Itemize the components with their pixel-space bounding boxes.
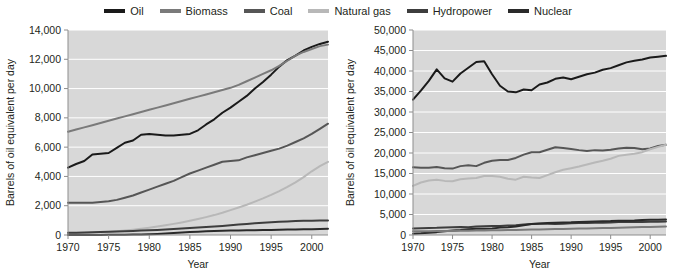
y-tick-label: 12,000	[29, 53, 61, 65]
x-tick-label: 1985	[520, 241, 544, 253]
chart-panel-right: 05,00010,00015,00020,00025,00030,00035,0…	[340, 22, 676, 280]
legend-item-oil[interactable]: Oil	[104, 6, 143, 17]
legend-item-label: Coal	[270, 6, 293, 17]
y-tick-label: 15,000	[374, 167, 406, 179]
legend-item-label: Natural gas	[334, 6, 390, 17]
y-tick-label: 8,000	[35, 111, 61, 123]
x-tick-label: 2000	[639, 241, 663, 253]
x-tick-label: 1975	[441, 241, 465, 253]
y-tick-label: 0	[55, 229, 61, 241]
y-tick-label: 5,000	[380, 208, 406, 220]
y-tick-label: 30,000	[374, 106, 406, 118]
x-tick-label: 1975	[97, 241, 121, 253]
y-tick-label: 35,000	[374, 85, 406, 97]
y-tick-label: 20,000	[374, 147, 406, 159]
x-tick-label: 1970	[401, 241, 425, 253]
x-tick-label: 1970	[56, 241, 80, 253]
y-tick-label: 40,000	[374, 65, 406, 77]
y-tick-label: 0	[400, 229, 406, 241]
legend-item-label: Oil	[130, 6, 143, 17]
figure-root: OilBiomassCoalNatural gasHydropowerNucle…	[0, 0, 676, 280]
x-tick-label: 1995	[599, 241, 623, 253]
line-swatch-icon	[160, 9, 181, 13]
legend-item-coal[interactable]: Coal	[244, 6, 293, 17]
line-swatch-icon	[104, 9, 125, 13]
y-tick-label: 25,000	[374, 126, 406, 138]
x-tick-label: 2000	[300, 241, 324, 253]
x-tick-label: 1985	[178, 241, 202, 253]
legend-item-natural-gas[interactable]: Natural gas	[308, 6, 390, 17]
legend-item-hydropower[interactable]: Hydropower	[407, 6, 492, 17]
y-tick-label: 2,000	[35, 199, 61, 211]
y-tick-label: 10,000	[374, 188, 406, 200]
y-tick-label: 4,000	[35, 170, 61, 182]
x-tick-label: 1980	[138, 241, 162, 253]
chart-panel-left: 02,0004,0006,0008,00010,00012,00014,0001…	[0, 22, 340, 280]
x-axis-title: Year	[529, 258, 551, 270]
chart-legend: OilBiomassCoalNatural gasHydropowerNucle…	[0, 0, 676, 22]
x-tick-label: 1990	[219, 241, 243, 253]
y-tick-label: 10,000	[29, 82, 61, 94]
line-swatch-icon	[508, 9, 529, 13]
line-swatch-icon	[308, 9, 329, 13]
legend-item-biomass[interactable]: Biomass	[160, 6, 228, 17]
y-tick-label: 45,000	[374, 44, 406, 56]
legend-item-label: Hydropower	[433, 6, 492, 17]
y-tick-label: 6,000	[35, 141, 61, 153]
y-axis-title: Barrels of oil equivalent per day	[4, 58, 16, 206]
line-chart-right: 05,00010,00015,00020,00025,00030,00035,0…	[340, 22, 676, 280]
line-swatch-icon	[407, 9, 428, 13]
legend-item-nuclear[interactable]: Nuclear	[508, 6, 572, 17]
x-tick-label: 1995	[259, 241, 283, 253]
line-chart-left: 02,0004,0006,0008,00010,00012,00014,0001…	[0, 22, 340, 280]
legend-item-label: Nuclear	[534, 6, 572, 17]
y-axis-title: Barrels of oil equivalent per day	[344, 58, 356, 206]
x-tick-label: 1990	[559, 241, 583, 253]
x-axis-title: Year	[187, 258, 209, 270]
line-swatch-icon	[244, 9, 265, 13]
x-tick-label: 1980	[480, 241, 504, 253]
y-tick-label: 50,000	[374, 24, 406, 36]
legend-item-label: Biomass	[186, 6, 228, 17]
y-tick-label: 14,000	[29, 24, 61, 36]
